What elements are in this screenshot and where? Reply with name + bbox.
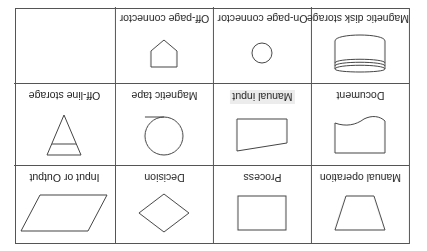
cell-manual-input: Manual input (213, 83, 311, 165)
cell-process: Process (213, 165, 311, 243)
cell-input-or-output: Input or Output (14, 165, 115, 243)
pentagon-icon (151, 38, 179, 68)
symbol-label: Off-page connector (116, 13, 213, 25)
cell-magnetic-disk-storage: Magnetic disk storage (311, 7, 409, 83)
symbol-label: Input or Output (14, 172, 115, 184)
document-icon (335, 115, 387, 155)
cell-document: Document (311, 83, 409, 165)
trapezoid-icon (335, 194, 387, 232)
circle-icon (251, 41, 275, 65)
symbol-label: Off-line storage (14, 90, 115, 102)
cell-off-line-storage: Off-line storage (14, 83, 115, 165)
symbol-label: Process (214, 172, 311, 184)
symbol-label: Manual operation (312, 172, 409, 184)
symbol-label: Magnetic tape (116, 90, 213, 102)
cell-empty (14, 7, 115, 83)
symbol-label: Document (312, 90, 409, 102)
disk-storage-icon (335, 33, 387, 73)
symbol-label: Magnetic disk storage (312, 13, 409, 25)
rectangle-icon (238, 194, 288, 232)
symbol-label: Decision (116, 172, 213, 184)
cell-manual-operation: Manual operation (311, 165, 409, 243)
symbol-label: On-page connector (214, 13, 311, 25)
cell-magnetic-tape: Magnetic tape (115, 83, 213, 165)
cell-off-page-connector: Off-page connector (115, 7, 213, 83)
symbol-label: Manual input (230, 90, 295, 104)
diamond-icon (139, 193, 191, 233)
parallelogram-icon (21, 193, 109, 233)
triangle-icon (45, 114, 85, 156)
magnetic-tape-icon (141, 113, 189, 157)
flowchart-symbols-figure: Manual operation Process Decision (0, 0, 427, 251)
cell-decision: Decision (115, 165, 213, 243)
symbols-table: Manual operation Process Decision (15, 8, 410, 244)
cell-on-page-connector: On-page connector (213, 7, 311, 83)
manual-input-icon (237, 117, 289, 153)
